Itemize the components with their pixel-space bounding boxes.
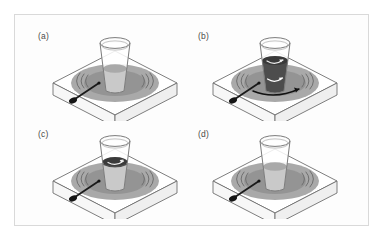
panel-c: (c) [31, 119, 197, 219]
panel-d-illustration [191, 119, 357, 219]
liquid-surface-a [103, 64, 127, 73]
panel-a-illustration [31, 21, 197, 121]
panel-c-illustration [31, 119, 197, 219]
panel-b: (b) [191, 21, 357, 121]
figure-root: (a) [0, 0, 383, 240]
panel-b-illustration [191, 21, 357, 121]
panel-d: (d) [191, 119, 357, 219]
figure-frame: (a) [14, 14, 369, 226]
liquid-body-c [103, 165, 127, 191]
liquid-surface-d [263, 162, 287, 171]
panel-a: (a) [31, 21, 197, 121]
